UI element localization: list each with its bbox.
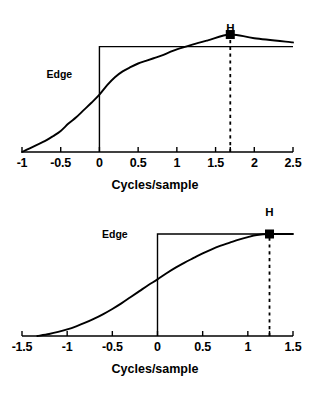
x-tick-label: 0 — [154, 340, 161, 354]
top-x-axis-ticks — [22, 147, 293, 152]
x-tick-label: 1.5 — [207, 156, 224, 170]
bottom-edge-step-line — [158, 234, 294, 336]
x-tick-label: -0.5 — [50, 156, 71, 170]
top-h-label: H — [226, 22, 234, 34]
top-edge-label: Edge — [47, 68, 73, 80]
top-chart-plot-area — [0, 0, 312, 200]
x-tick-label: 2.5 — [285, 156, 302, 170]
x-tick-label: 2 — [251, 156, 258, 170]
top-chart-figure: Edge H -1-0.500.511.522.5 Cycles/sample — [0, 0, 312, 200]
x-tick-label: 1 — [244, 340, 251, 354]
x-tick-label: -1 — [62, 340, 73, 354]
bottom-h-label: H — [265, 206, 273, 218]
x-tick-label: -1.5 — [12, 340, 33, 354]
bottom-mtf-curve — [37, 234, 293, 336]
x-tick-label: 0.5 — [130, 156, 147, 170]
x-tick-label: -1 — [17, 156, 28, 170]
x-tick-label: 1.5 — [285, 340, 302, 354]
top-mtf-curve — [22, 34, 293, 152]
top-x-axis-title: Cycles/sample — [112, 178, 199, 192]
bottom-h-marker — [265, 230, 274, 239]
bottom-edge-label: Edge — [102, 228, 128, 240]
top-edge-step-line — [99, 47, 293, 152]
x-tick-label: 1 — [174, 156, 181, 170]
x-tick-label: 0 — [96, 156, 103, 170]
x-tick-label: 0.5 — [194, 340, 211, 354]
bottom-x-axis-title: Cycles/sample — [112, 362, 199, 376]
x-tick-label: -0.5 — [102, 340, 123, 354]
bottom-chart-figure: Edge H -1.5-1-0.500.511.5 Cycles/sample — [0, 199, 312, 399]
